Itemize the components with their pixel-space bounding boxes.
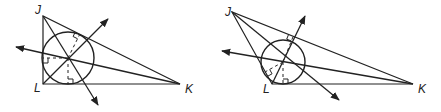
right-angle-mark xyxy=(268,69,272,76)
vertex-label-k: K xyxy=(185,82,194,96)
angle-bisector-k xyxy=(16,47,180,84)
angle-bisector-k xyxy=(222,51,413,84)
vertex-label-j: J xyxy=(34,3,42,17)
incircle-diagrams: J L K J L K xyxy=(0,0,441,112)
angle-bisector-l xyxy=(43,19,108,84)
angle-bisector-l xyxy=(272,16,305,84)
right-angle-mark xyxy=(43,58,48,63)
radius-dash xyxy=(68,34,80,58)
vertex-label-l: L xyxy=(263,82,270,96)
figure-obtuse-triangle: J L K xyxy=(222,5,427,100)
triangle-jlk xyxy=(232,12,413,84)
vertex-label-j: J xyxy=(224,5,232,19)
vertex-label-l: L xyxy=(34,81,41,95)
vertex-label-k: K xyxy=(418,82,427,96)
figure-right-triangle: J L K xyxy=(16,3,194,105)
